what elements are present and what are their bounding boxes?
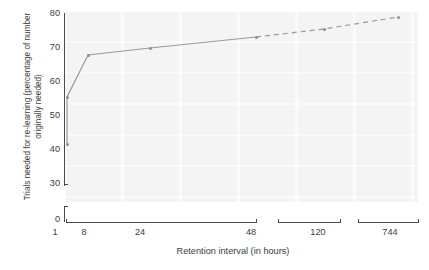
x-tick-label: 120 bbox=[305, 227, 331, 237]
data-point-marker bbox=[255, 36, 258, 39]
y-axis-break-lower-cap bbox=[64, 206, 68, 207]
data-point-marker bbox=[66, 96, 69, 99]
y-tick-label: 80 bbox=[38, 8, 60, 18]
x-axis-segment-cap bbox=[418, 219, 419, 223]
x-axis-segment bbox=[358, 222, 418, 223]
x-tick-label: 8 bbox=[71, 227, 97, 237]
y-tick-label: 0 bbox=[38, 214, 60, 224]
chart-figure: Trials needed for re-learning (percentag… bbox=[0, 0, 429, 270]
line-solid-segment bbox=[67, 37, 256, 144]
x-tick-label: 48 bbox=[238, 227, 264, 237]
y-tick-label: 60 bbox=[38, 76, 60, 86]
data-point-marker bbox=[66, 143, 69, 146]
data-point-marker bbox=[397, 16, 400, 19]
y-axis-line-lower-segment bbox=[64, 206, 65, 222]
y-axis-line bbox=[64, 13, 65, 186]
x-tick-label: 1 bbox=[42, 227, 68, 237]
data-point-marker bbox=[87, 54, 90, 57]
x-axis-segment-cap bbox=[278, 219, 279, 223]
y-tick-label: 40 bbox=[38, 144, 60, 154]
x-axis-segment bbox=[66, 222, 256, 223]
x-axis-segment-cap bbox=[66, 219, 67, 223]
x-tick-label: 744 bbox=[377, 227, 403, 237]
x-axis-label: Retention interval (in hours) bbox=[118, 246, 348, 256]
y-axis-label: Trials needed for re-learning (percentag… bbox=[23, 12, 44, 202]
line-dashed-segment bbox=[256, 17, 398, 37]
data-series-line bbox=[66, 12, 418, 202]
data-point-marker bbox=[323, 28, 326, 31]
x-tick-label: 24 bbox=[127, 227, 153, 237]
x-axis-segment-cap bbox=[340, 219, 341, 223]
data-point-marker bbox=[149, 47, 152, 50]
y-tick-label: 70 bbox=[38, 42, 60, 52]
x-axis-segment-cap bbox=[256, 219, 257, 223]
x-axis-segment bbox=[278, 222, 340, 223]
plot-area bbox=[66, 12, 418, 202]
y-tick-label: 50 bbox=[38, 110, 60, 120]
x-axis-segment-cap bbox=[358, 219, 359, 223]
y-tick-label: 30 bbox=[38, 178, 60, 188]
